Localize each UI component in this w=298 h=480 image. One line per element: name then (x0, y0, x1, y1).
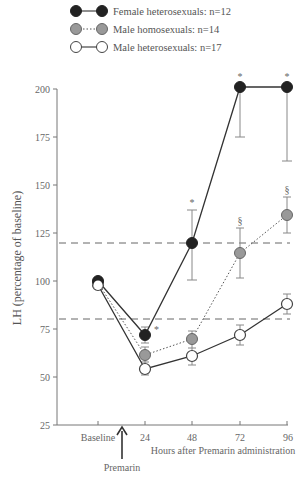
y-tick-label: 150 (35, 180, 50, 191)
y-axis-title: LH (percentage of baseline) (10, 191, 24, 325)
open-circle-marker-icon (71, 42, 82, 53)
y-tick-label: 25 (40, 420, 50, 431)
x-tick-label: Baseline (81, 432, 116, 443)
significance-star: * (190, 197, 195, 208)
lh-response-chart: Female heterosexuals: n=12 Male homosexu… (0, 0, 298, 480)
legend: Female heterosexuals: n=12 Male homosexu… (71, 6, 231, 54)
legend-item-male-homosexuals: Male homosexuals: n=14 (71, 24, 220, 36)
y-axis: 200 175 150 125 100 75 50 25 LH (percent… (10, 84, 57, 431)
significance-star: * (238, 71, 243, 82)
significance-section: § (285, 184, 290, 195)
y-tick-label: 75 (40, 324, 50, 335)
y-tick-label: 200 (35, 84, 50, 95)
x-tick-label: 96 (283, 432, 293, 443)
x-tick-label: 24 (140, 432, 150, 443)
significance-star: * (285, 71, 290, 82)
gray-circle-marker-icon (97, 24, 108, 35)
x-tick-label: 48 (187, 432, 197, 443)
significance-markers: * * * * § § (154, 71, 290, 335)
filled-circle-marker-icon (71, 6, 82, 17)
legend-label: Male heterosexuals: n=17 (113, 42, 222, 53)
legend-item-female-heterosexuals: Female heterosexuals: n=12 (71, 6, 231, 18)
y-tick-label: 175 (35, 132, 50, 143)
significance-star: * (154, 324, 159, 335)
filled-circle-marker-icon (97, 6, 108, 17)
x-axis: Baseline 24 48 72 96 Hours after Premari… (57, 421, 295, 473)
error-bars (141, 87, 292, 375)
legend-item-male-heterosexuals: Male heterosexuals: n=17 (71, 42, 222, 54)
y-tick-label: 50 (40, 372, 50, 383)
legend-label: Male homosexuals: n=14 (113, 24, 220, 35)
x-tick-label: 72 (235, 432, 245, 443)
premarin-arrow-icon (117, 427, 127, 459)
gray-circle-marker-icon (71, 24, 82, 35)
y-tick-label: 100 (35, 276, 50, 287)
legend-label: Female heterosexuals: n=12 (113, 6, 231, 17)
x-axis-title: Hours after Premarin administration (151, 445, 296, 456)
open-circle-marker-icon (97, 42, 108, 53)
significance-section: § (238, 215, 243, 226)
y-tick-label: 125 (35, 228, 50, 239)
baseline-open-overlay (94, 281, 103, 290)
series-markers-male-heterosexuals (93, 280, 293, 375)
premarin-label: Premarin (104, 462, 141, 473)
